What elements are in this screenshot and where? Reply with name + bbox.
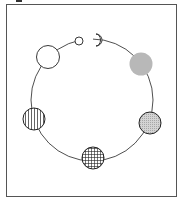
marker-vertical-hatched-circle: [23, 108, 45, 130]
ring-gap: [83, 34, 93, 44]
marker-small-open-circle: [75, 37, 83, 45]
ring-diagram: [0, 0, 183, 202]
marker-large-open-circle: [37, 46, 60, 69]
marker-gray-circle: [130, 53, 153, 76]
top-mark: [16, 0, 22, 2]
marker-crescent: [96, 34, 102, 46]
marker-stippled-circle: [139, 112, 161, 134]
marker-grid-hatched-circle: [82, 147, 104, 169]
